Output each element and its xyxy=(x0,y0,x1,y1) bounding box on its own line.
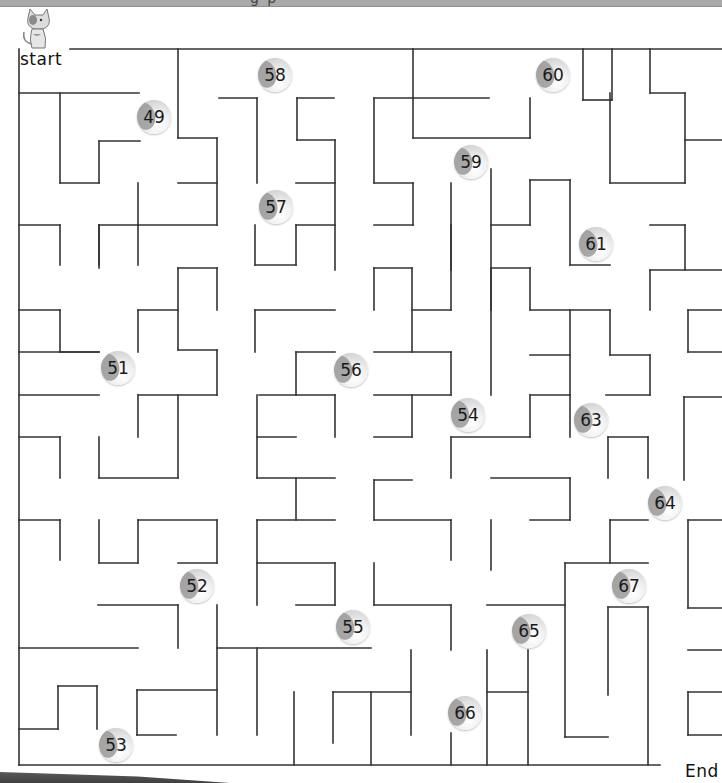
number-ball-53[interactable]: 53 xyxy=(99,728,133,762)
number-ball-label: 59 xyxy=(454,145,488,179)
number-ball-59[interactable]: 59 xyxy=(454,145,488,179)
number-ball-55[interactable]: 55 xyxy=(336,610,370,644)
number-ball-49[interactable]: 49 xyxy=(137,100,171,134)
number-ball-65[interactable]: 65 xyxy=(512,614,546,648)
number-ball-66[interactable]: 66 xyxy=(448,696,482,730)
number-ball-label: 60 xyxy=(536,58,570,92)
number-ball-63[interactable]: 63 xyxy=(574,403,608,437)
number-ball-label: 66 xyxy=(448,696,482,730)
number-ball-61[interactable]: 61 xyxy=(579,227,613,261)
number-ball-54[interactable]: 54 xyxy=(451,398,485,432)
number-ball-label: 49 xyxy=(137,100,171,134)
number-ball-label: 64 xyxy=(648,486,682,520)
number-ball-60[interactable]: 60 xyxy=(536,58,570,92)
number-ball-64[interactable]: 64 xyxy=(648,486,682,520)
number-ball-label: 52 xyxy=(180,569,214,603)
maze-grid[interactable] xyxy=(0,0,722,783)
number-ball-label: 58 xyxy=(258,58,292,92)
number-ball-58[interactable]: 58 xyxy=(258,58,292,92)
number-ball-52[interactable]: 52 xyxy=(180,569,214,603)
number-ball-label: 53 xyxy=(99,728,133,762)
number-ball-label: 55 xyxy=(336,610,370,644)
number-ball-label: 54 xyxy=(451,398,485,432)
number-ball-56[interactable]: 56 xyxy=(334,353,368,387)
number-ball-67[interactable]: 67 xyxy=(612,569,646,603)
number-ball-57[interactable]: 57 xyxy=(259,190,293,224)
number-ball-label: 57 xyxy=(259,190,293,224)
number-ball-label: 61 xyxy=(579,227,613,261)
number-ball-51[interactable]: 51 xyxy=(101,351,135,385)
number-ball-label: 63 xyxy=(574,403,608,437)
number-ball-label: 67 xyxy=(612,569,646,603)
number-ball-label: 56 xyxy=(334,353,368,387)
number-ball-label: 51 xyxy=(101,351,135,385)
number-ball-label: 65 xyxy=(512,614,546,648)
